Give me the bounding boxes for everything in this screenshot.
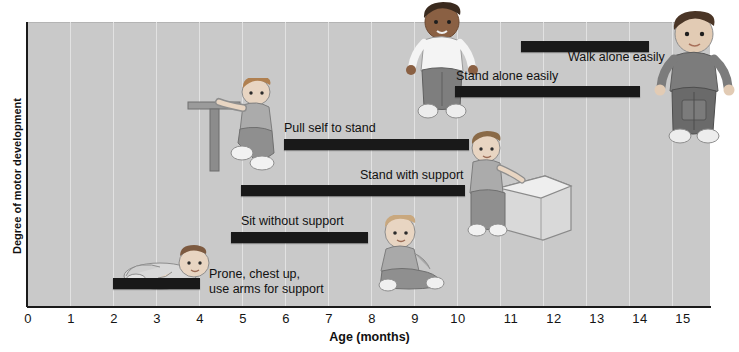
x-tick-1: 1 [56, 311, 86, 326]
bar-sit-without-support [231, 232, 368, 243]
x-tick-4: 4 [185, 311, 215, 326]
pull-to-stand-table-illustration [186, 78, 290, 176]
walk-alone-toddler-illustration [650, 8, 738, 148]
label-sit-without-support-text: Sit without support [241, 214, 344, 228]
label-prone-chest-up-line2: use arms for support [209, 282, 324, 296]
label-prone-chest-up-line1: Prone, chest up, [209, 267, 300, 281]
x-tick-9: 9 [400, 311, 430, 326]
x-tick-5: 5 [228, 311, 258, 326]
sitting-baby-illustration [366, 215, 446, 293]
x-tick-2: 2 [99, 311, 129, 326]
label-pull-self-to-stand-text: Pull self to stand [284, 121, 376, 135]
x-tick-0: 0 [13, 311, 43, 326]
x-tick-14: 14 [625, 311, 655, 326]
x-tick-6: 6 [271, 311, 301, 326]
label-sit-without-support: Sit without support [241, 214, 344, 229]
x-tick-10: 10 [443, 311, 473, 326]
motor-development-chart: Prone, chest up,use arms for support Sit… [0, 0, 739, 352]
x-tick-11: 11 [496, 311, 526, 326]
x-axis-line [27, 306, 711, 308]
bar-stand-alone-easily [455, 86, 640, 97]
x-tick-12: 12 [539, 311, 569, 326]
bar-prone-chest-up [113, 278, 200, 289]
label-stand-alone-easily-text: Stand alone easily [456, 69, 558, 83]
x-axis-title: Age (months) [0, 330, 739, 344]
label-stand-alone-easily: Stand alone easily [456, 69, 558, 84]
y-axis-title: Degree of motor development [11, 66, 23, 286]
label-pull-self-to-stand: Pull self to stand [284, 121, 376, 136]
label-walk-alone-easily: Walk alone easily [568, 50, 665, 65]
x-tick-8: 8 [357, 311, 387, 326]
label-stand-with-support-text: Stand with support [360, 168, 464, 182]
bar-stand-with-support [241, 185, 465, 196]
x-tick-3: 3 [142, 311, 172, 326]
stand-alone-toddler-illustration [400, 2, 484, 122]
label-walk-alone-easily-text: Walk alone easily [568, 50, 665, 64]
x-tick-7: 7 [314, 311, 344, 326]
gridline [70, 22, 71, 306]
stand-with-support-illustration [455, 130, 575, 248]
bar-pull-self-to-stand [284, 139, 469, 150]
label-stand-with-support: Stand with support [360, 168, 464, 183]
y-axis-line [26, 22, 28, 307]
x-tick-13: 13 [582, 311, 612, 326]
gridline [328, 22, 329, 306]
label-prone-chest-up: Prone, chest up,use arms for support [209, 267, 324, 297]
x-tick-15: 15 [668, 311, 698, 326]
